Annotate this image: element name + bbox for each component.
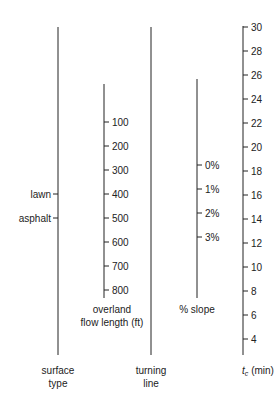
overland_flow-tick-label: 500 bbox=[112, 213, 129, 224]
surface-tick-label: asphalt bbox=[19, 213, 51, 224]
turning-line-label-2: line bbox=[143, 378, 159, 389]
tc-tick-label: 26 bbox=[251, 70, 263, 81]
tc-tick-label: 30 bbox=[251, 22, 263, 33]
slope-axis: 0%1%2%3% % slope bbox=[179, 79, 219, 315]
overland_flow-tick-label: 600 bbox=[112, 237, 129, 248]
tc-tick-label: 12 bbox=[251, 238, 263, 249]
overland-flow-axis: 100200300400500600700800 overland flow l… bbox=[81, 84, 144, 328]
tc-tick-label: 10 bbox=[251, 262, 263, 273]
overland_flow-tick-label: 300 bbox=[112, 165, 129, 176]
tc-tick-label: 24 bbox=[251, 94, 263, 105]
slope-tick-label: 0% bbox=[205, 160, 220, 171]
slope-tick-label: 3% bbox=[205, 232, 220, 243]
tc-tick-label: 28 bbox=[251, 46, 263, 57]
slope-tick-label: 1% bbox=[205, 184, 220, 195]
tc-tick-label: 4 bbox=[251, 334, 257, 345]
surface-type-axis: lawnasphalt surface type bbox=[19, 27, 75, 389]
overland_flow-tick-label: 200 bbox=[112, 141, 129, 152]
tc-tick-label: 20 bbox=[251, 142, 263, 153]
tc-axis: 3028262422201816141210864 tc (min) bbox=[242, 22, 274, 378]
overland_flow-tick-label: 100 bbox=[112, 117, 129, 128]
overland_flow-tick-label: 800 bbox=[112, 285, 129, 296]
overland-flow-label-1: overland bbox=[93, 304, 131, 315]
tc-tick-label: 16 bbox=[251, 190, 263, 201]
tc-tick-label: 22 bbox=[251, 118, 263, 129]
tc-tick-label: 14 bbox=[251, 214, 263, 225]
surface-tick-label: lawn bbox=[30, 189, 51, 200]
overland_flow-tick-label: 700 bbox=[112, 261, 129, 272]
overland-flow-label-2: flow length (ft) bbox=[81, 317, 144, 328]
turning-line-axis: turning line bbox=[136, 27, 167, 389]
tc-tick-label: 18 bbox=[251, 166, 263, 177]
tc-tick-label: 8 bbox=[251, 286, 257, 297]
turning-line-label-1: turning bbox=[136, 365, 167, 376]
nomograph: lawnasphalt surface type 100200300400500… bbox=[0, 0, 279, 400]
surface-type-label-1: surface bbox=[42, 365, 75, 376]
tc-tick-label: 6 bbox=[251, 310, 257, 321]
slope-tick-label: 2% bbox=[205, 208, 220, 219]
slope-label: % slope bbox=[179, 304, 215, 315]
tc-label: tc (min) bbox=[242, 365, 274, 377]
surface-type-label-2: type bbox=[49, 378, 68, 389]
overland_flow-tick-label: 400 bbox=[112, 189, 129, 200]
